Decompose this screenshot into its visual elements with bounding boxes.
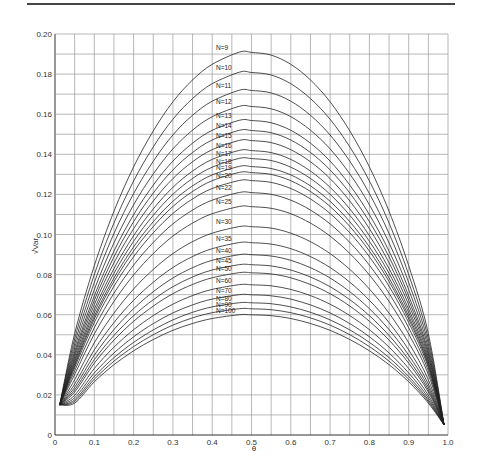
- y-tick-label: 0.08: [36, 271, 52, 280]
- x-tick-label: 0.7: [325, 438, 337, 447]
- x-tick-label: 1.0: [442, 438, 454, 447]
- series-label: N=70: [216, 287, 232, 294]
- y-axis-ticks: 00.020.040.060.080.100.120.140.160.180.2…: [36, 30, 52, 440]
- y-tick-label: 0.04: [36, 351, 52, 360]
- y-tick-label: 0.06: [36, 311, 52, 320]
- curve-n-17: [60, 158, 444, 425]
- y-tick-label: 0.18: [36, 70, 52, 79]
- x-tick-label: 0.1: [89, 438, 101, 447]
- y-tick-label: 0.12: [36, 190, 52, 199]
- series-label: N=15: [216, 132, 232, 139]
- x-tick-label: 0.9: [403, 438, 415, 447]
- y-tick-label: 0.20: [36, 30, 52, 39]
- series-label: N=45: [216, 257, 232, 264]
- curve-n-10: [60, 71, 444, 425]
- series-label: N=40: [216, 247, 232, 254]
- series-label: N=60: [216, 277, 232, 284]
- curve-n-19: [60, 172, 444, 425]
- y-tick-label: 0.14: [36, 150, 52, 159]
- series-label: N=10: [216, 64, 232, 71]
- curve-n-40: [60, 254, 444, 425]
- series-label: N=30: [216, 218, 232, 225]
- x-tick-label: 0: [53, 438, 58, 447]
- x-tick-label: 0.2: [128, 438, 140, 447]
- y-tick-label: 0.16: [36, 110, 52, 119]
- series-label: N=13: [216, 112, 232, 119]
- series-label: N=19: [216, 164, 232, 171]
- series-label: N=20: [216, 172, 232, 179]
- curve-n-25: [60, 206, 444, 425]
- series-label: N=11: [216, 82, 232, 89]
- series-label: N=50: [216, 265, 232, 272]
- y-axis-label: √Var: [31, 238, 40, 255]
- x-tick-label: 0.3: [167, 438, 179, 447]
- curve-n-80: [60, 302, 444, 425]
- chart: N=9N=10N=11N=12N=13N=14N=15N=16N=17N=18N…: [0, 0, 480, 471]
- series-label: N=17: [216, 150, 232, 157]
- x-tick-label: 0.8: [364, 438, 376, 447]
- series-label: N=9: [216, 44, 228, 51]
- x-tick-label: 0.6: [285, 438, 297, 447]
- series-label: N=22: [216, 184, 232, 191]
- curve-n-35: [60, 242, 444, 425]
- curves: [60, 51, 444, 425]
- grid: [55, 34, 448, 435]
- curve-n-70: [60, 294, 444, 425]
- x-axis-label: θ: [252, 444, 257, 453]
- series-label: N=25: [216, 198, 232, 205]
- x-tick-label: 0.4: [207, 438, 219, 447]
- series-label: N=12: [216, 98, 232, 105]
- series-label: N=35: [216, 235, 232, 242]
- curve-n-12: [60, 105, 444, 425]
- y-tick-label: 0.02: [36, 391, 52, 400]
- series-label: N=14: [216, 122, 232, 129]
- series-label: N=100: [216, 307, 236, 314]
- series-label: N=16: [216, 142, 232, 149]
- curve-n-100: [60, 314, 444, 425]
